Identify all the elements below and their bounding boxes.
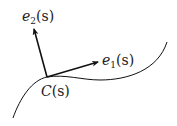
- frenet-frame-diagram: e2(s) e1(s) C(s): [0, 0, 177, 126]
- vector-e1-arrow: [47, 62, 98, 77]
- label-e2: e2(s): [22, 8, 54, 26]
- curve-c: [13, 42, 167, 118]
- label-c: C(s): [41, 83, 70, 99]
- vector-e2-arrow: [34, 29, 47, 77]
- label-e1: e1(s): [102, 52, 134, 70]
